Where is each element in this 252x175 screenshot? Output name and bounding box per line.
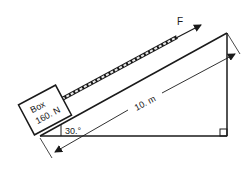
inclined-plane-diagram: 30.° F Box 160. N 10. m [0,0,252,175]
dimension-extension-right [227,33,240,54]
incline-triangle [40,33,227,136]
angle-label: 30.° [65,126,82,136]
length-label: 10. m [133,93,158,112]
box: Box 160. N [18,85,71,135]
rope [62,37,177,99]
dimension-extension-left [40,138,52,158]
right-angle-marker [220,129,227,136]
force-label: F [177,16,183,27]
triangle-hypotenuse [40,33,227,136]
angle-marker: 30.° [61,124,82,136]
dimension-arrow-right-icon [162,54,235,93]
